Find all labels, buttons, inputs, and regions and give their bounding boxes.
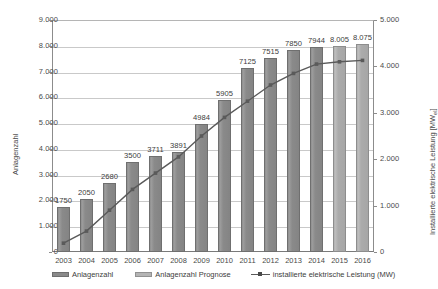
line-marker: [292, 72, 296, 76]
line-marker: [154, 171, 158, 175]
line-marker: [315, 62, 319, 66]
legend-item[interactable]: Anlagenzahl Prognose: [135, 270, 230, 279]
chart-legend: AnlagenzahlAnlagenzahl Prognoseinstallie…: [52, 266, 374, 282]
x-axis-tick-label: 2006: [121, 256, 144, 265]
line-marker: [200, 134, 204, 138]
line-marker: [108, 208, 112, 212]
x-axis-tick-label: 2007: [144, 256, 167, 265]
line-marker: [223, 116, 227, 120]
legend-line-swatch-icon: [251, 271, 270, 278]
line-marker: [338, 60, 342, 64]
legend-bar-swatch-icon: [135, 272, 152, 277]
y-axis-right-title-subscript: el: [432, 111, 438, 115]
y-axis-right-title-text: Installierte elektrische Leistung [MW: [428, 115, 437, 235]
x-axis-tick-label: 2011: [236, 256, 259, 265]
line-path: [64, 60, 363, 243]
legend-item[interactable]: Anlagenzahl: [52, 270, 113, 279]
x-axis-tick-label: 2003: [52, 256, 75, 265]
line-marker: [177, 155, 181, 159]
line-marker: [62, 241, 66, 245]
x-axis-tick-label: 2016: [351, 256, 374, 265]
x-axis-tick-label: 2015: [328, 256, 351, 265]
x-axis-tick-label: 2012: [259, 256, 282, 265]
x-axis-tick-label: 2013: [282, 256, 305, 265]
legend-item-label: installierte elektrische Leistung (MW): [273, 270, 396, 279]
x-axis-tick-label: 2014: [305, 256, 328, 265]
line-marker: [131, 188, 135, 192]
line-series-layer: [52, 20, 374, 252]
legend-bar-swatch-icon: [52, 272, 69, 277]
legend-item-label: Anlagenzahl Prognose: [155, 270, 230, 279]
line-marker: [269, 83, 273, 87]
y-axis-left-title: Anlagenzahl: [11, 134, 20, 175]
x-axis-tick-label: 2004: [75, 256, 98, 265]
chart-container: 01.0002.0003.0004.0005.0006.0007.0008.00…: [0, 0, 438, 289]
line-marker: [246, 99, 250, 103]
y-axis-right-title: Installierte elektrische Leistung [MWel]: [428, 108, 437, 235]
legend-item[interactable]: installierte elektrische Leistung (MW): [251, 270, 396, 279]
x-axis-tick-label: 2005: [98, 256, 121, 265]
x-axis-tick-label: 2008: [167, 256, 190, 265]
x-axis-tick-label: 2009: [190, 256, 213, 265]
x-axis-tick-label: 2010: [213, 256, 236, 265]
legend-item-label: Anlagenzahl: [72, 270, 113, 279]
line-marker: [85, 229, 89, 233]
line-marker: [361, 59, 365, 63]
